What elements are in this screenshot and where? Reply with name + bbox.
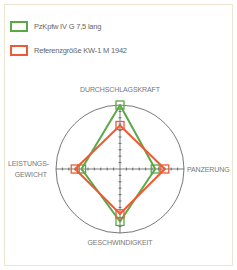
axis-label-geschwindigkeit: GESCHWINDIGKEIT	[87, 239, 153, 246]
radar-chart: DURCHSCHLAGSKRAFT PANZERUNG GESCHWINDIGK…	[0, 0, 237, 270]
axis-label-leistungsgewicht-2: GEWICHT	[15, 171, 48, 178]
series-polygon-0	[82, 105, 156, 221]
plot-area	[56, 101, 184, 233]
axis-label-durchschlagskraft: DURCHSCHLAGSKRAFT	[80, 86, 161, 93]
axis-label-leistungsgewicht-1: LEISTUNGS-	[8, 160, 50, 167]
axis-label-panzerung: PANZERUNG	[187, 166, 230, 173]
